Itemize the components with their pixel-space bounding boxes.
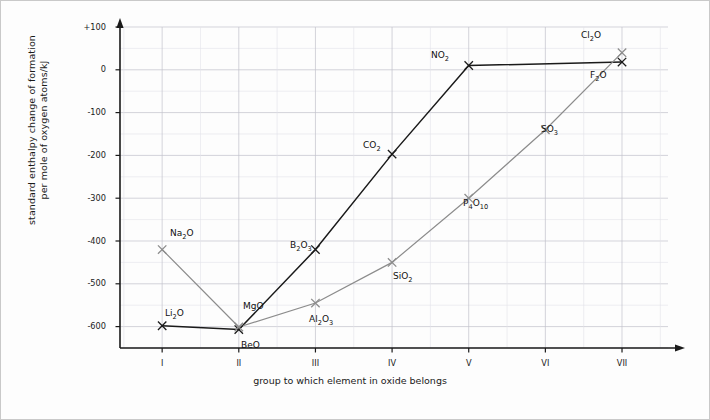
x-tick-label: VI xyxy=(530,358,560,368)
x-tick-label: V xyxy=(454,358,484,368)
y-tick-label: -300 xyxy=(72,193,106,203)
point-label-P4O10: P4O10 xyxy=(463,198,488,211)
y-axis-title: standard enthalpy change of formation pe… xyxy=(26,0,50,260)
y-tick-label: -100 xyxy=(72,107,106,117)
y-tick-label: -600 xyxy=(72,321,106,331)
x-axis-title: group to which element in oxide belongs xyxy=(200,375,500,386)
point-label-NO2: NO2 xyxy=(431,50,449,63)
point-label-Na2O: Na2O xyxy=(170,228,194,241)
point-label-Li2O: Li2O xyxy=(165,308,184,321)
y-tick-label: -500 xyxy=(72,278,106,288)
y-axis-title-line-1: standard enthalpy change of formation xyxy=(26,0,38,260)
point-label-MgO: MgO xyxy=(243,301,264,311)
point-label-SiO2: SiO2 xyxy=(393,271,413,284)
y-tick-label: -200 xyxy=(72,150,106,160)
x-tick-label: III xyxy=(300,358,330,368)
point-label-Al2O3: Al2O3 xyxy=(309,314,333,327)
y-tick-label: +100 xyxy=(72,22,106,32)
point-label-F2O: F2O xyxy=(590,70,606,83)
x-tick-label: VII xyxy=(607,358,637,368)
enthalpy-chart: standard enthalpy change of formation pe… xyxy=(0,0,710,420)
x-tick-label: II xyxy=(224,358,254,368)
plot-area xyxy=(0,0,710,420)
axes xyxy=(116,18,686,353)
point-label-CO2: CO2 xyxy=(363,140,381,153)
x-axis-arrow xyxy=(675,344,685,351)
point-label-B2O3: B2O3 xyxy=(290,240,312,253)
y-tick-label: -400 xyxy=(72,236,106,246)
point-label-BeO: BeO xyxy=(241,340,260,350)
y-axis-title-line-2: per mole of oxygen atoms/kJ xyxy=(38,0,50,260)
y-tick-label: 0 xyxy=(72,64,106,74)
x-tick-label: I xyxy=(147,358,177,368)
grid-lines xyxy=(120,27,668,348)
x-tick-label: IV xyxy=(377,358,407,368)
point-label-SO3: SO3 xyxy=(541,124,558,137)
point-label-Cl2O: Cl2O xyxy=(581,30,601,43)
